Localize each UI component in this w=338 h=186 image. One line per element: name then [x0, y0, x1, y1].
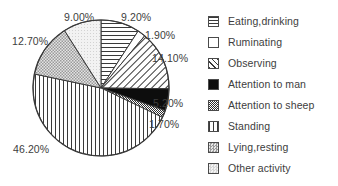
diagonal-hatch-swatch-icon [208, 58, 219, 69]
pie-data-label: 14.10% [152, 52, 188, 64]
legend-item-label: Attention to man [228, 79, 306, 90]
legend-item-label: Standing [228, 121, 270, 132]
pie-data-label: 1.70% [149, 118, 179, 130]
legend-item: Eating,drinking [208, 11, 338, 32]
legend-item-label: Lying,resting [228, 142, 288, 153]
pie-chart-svg [0, 0, 205, 186]
very-light-dots-swatch-icon [208, 163, 219, 174]
legend-item: Attention to man [208, 74, 338, 95]
legend-item: Observing [208, 53, 338, 74]
solid-black-swatch-icon [208, 79, 219, 90]
legend-item-label: Eating,drinking [228, 16, 299, 27]
legend-item-label: Attention to sheep [228, 100, 314, 111]
legend-item: Ruminating [208, 32, 338, 53]
legend-item-label: Ruminating [228, 37, 282, 48]
pie-data-label: 9.20% [121, 11, 151, 23]
dense-checker-swatch-icon [208, 100, 219, 111]
legend-item-label: Other activity [228, 163, 291, 174]
pie-data-label: 12.70% [12, 35, 48, 47]
horizontal-lines-swatch-icon [208, 16, 219, 27]
legend-item: Other activity [208, 158, 338, 179]
vertical-lines-swatch-icon [208, 121, 219, 132]
pie-chart-plot-area: 9.00%9.20%1.90%12.70%14.10%5.20%1.70%46.… [0, 0, 205, 186]
legend-item-label: Observing [228, 58, 277, 69]
pie-data-label: 9.00% [64, 11, 94, 23]
pie-data-label: 5.20% [153, 97, 183, 109]
chart-legend: Eating,drinking Ruminating Observing Att… [208, 11, 338, 179]
pie-data-label: 1.90% [145, 29, 175, 41]
pie-data-label: 46.20% [13, 143, 49, 155]
empty-white-swatch-icon [208, 37, 219, 48]
legend-item: Attention to sheep [208, 95, 338, 116]
legend-item: Lying,resting [208, 137, 338, 158]
legend-item: Standing [208, 116, 338, 137]
pie-chart-figure: 9.00%9.20%1.90%12.70%14.10%5.20%1.70%46.… [0, 0, 338, 186]
light-checker-swatch-icon [208, 142, 219, 153]
